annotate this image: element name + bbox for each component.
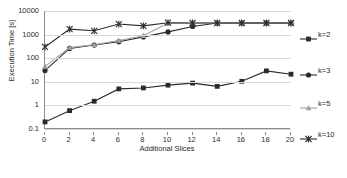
- legend-entry-k-2[interactable]: k=2: [300, 30, 330, 40]
- data-point-asterisk: [42, 44, 48, 51]
- legend-label: k=2: [318, 30, 330, 40]
- x-tick-label: 20: [280, 135, 300, 144]
- legend-label: k=3: [318, 66, 330, 76]
- gridline: [45, 82, 291, 83]
- data-point-square: [116, 87, 121, 92]
- legend-entry-k-3[interactable]: k=3: [300, 66, 330, 76]
- y-tick-label: 100: [26, 54, 39, 62]
- x-tick-label: 0: [34, 135, 54, 144]
- legend-entry-k-5[interactable]: k=5: [300, 99, 330, 109]
- chart-legend: k=2k=3k=5k=10: [300, 0, 347, 150]
- data-point-square: [289, 72, 294, 77]
- x-axis-title: Additional Slices: [44, 144, 290, 153]
- data-point-square: [215, 84, 220, 89]
- x-tick-label: 16: [231, 135, 251, 144]
- x-tick-label: 14: [206, 135, 226, 144]
- data-point-square: [166, 83, 171, 88]
- y-tick-label: 1000: [22, 31, 39, 39]
- series-line: [45, 71, 291, 122]
- data-point-circle: [42, 68, 47, 73]
- y-tick-label: 0.1: [29, 125, 39, 133]
- x-tick-label: 10: [157, 135, 177, 144]
- legend-marker-asterisk-icon: [300, 130, 317, 140]
- data-point-square: [141, 86, 146, 91]
- data-point-square: [92, 99, 97, 104]
- data-point-circle: [306, 72, 311, 77]
- data-point-square: [43, 119, 48, 124]
- gridline: [45, 35, 291, 36]
- chart-figure: 0.1110100100010000 Execution Time [s] 02…: [0, 0, 347, 178]
- series-k-5: [42, 20, 294, 69]
- gridline: [45, 129, 291, 130]
- x-axis-tick-labels: 02468101214161820: [44, 132, 290, 144]
- series-layer: [45, 11, 291, 129]
- x-tick-label: 18: [255, 135, 275, 144]
- gridline: [45, 58, 291, 59]
- x-tick-label: 4: [83, 135, 103, 144]
- legend-marker-triangle-icon: [300, 99, 317, 109]
- plot-area: [44, 11, 290, 129]
- legend-marker-square-icon: [300, 30, 317, 40]
- legend-label: k=10: [318, 130, 334, 140]
- x-tick-label: 2: [59, 135, 79, 144]
- series-k-2: [43, 68, 294, 124]
- data-point-square: [306, 37, 311, 42]
- data-point-square: [264, 68, 269, 73]
- legend-label: k=5: [318, 99, 330, 109]
- gridline: [45, 11, 291, 12]
- y-tick-label: 1: [35, 101, 39, 109]
- y-tick-label: 10: [31, 78, 39, 86]
- legend-entry-k-10[interactable]: k=10: [300, 130, 334, 140]
- x-tick-label: 12: [182, 135, 202, 144]
- data-point-square: [67, 108, 72, 113]
- legend-marker-circle-icon: [300, 66, 317, 76]
- gridline: [45, 105, 291, 106]
- x-tick-label: 6: [108, 135, 128, 144]
- y-tick-label: 10000: [18, 7, 39, 15]
- x-tick-label: 8: [132, 135, 152, 144]
- y-axis-title: Execution Time [s]: [7, 11, 16, 91]
